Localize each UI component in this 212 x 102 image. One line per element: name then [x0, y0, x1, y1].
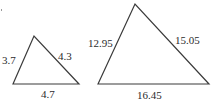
- small-triangle: 3.7 4.3 4.7: [2, 36, 79, 100]
- large-triangle-right-side-label: 15.05: [175, 34, 200, 46]
- large-triangle-left-side-label: 12.95: [88, 37, 113, 49]
- similar-triangles-diagram: 3.7 4.3 4.7 12.95 15.05 16.45: [0, 0, 212, 102]
- small-triangle-left-side-label: 3.7: [2, 54, 16, 66]
- large-triangle-base-label: 16.45: [137, 89, 162, 101]
- large-triangle: 12.95 15.05 16.45: [88, 4, 209, 101]
- small-triangle-right-side-label: 4.3: [58, 50, 72, 62]
- stray-mark: [1, 9, 2, 11]
- small-triangle-base-label: 4.7: [41, 88, 55, 100]
